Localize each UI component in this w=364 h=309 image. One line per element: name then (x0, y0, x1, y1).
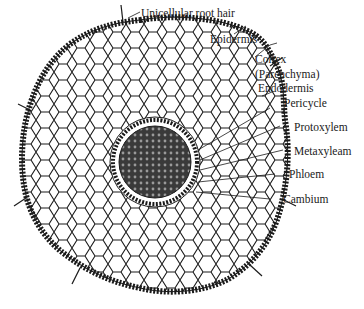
root-hair-top (121, 5, 123, 22)
label-root-hair: Unicellular root hair (141, 7, 235, 20)
label-phloem: Phloem (289, 168, 324, 181)
label-protoxylem: Protoxylem (294, 121, 348, 134)
label-epidermis: Epidermis (210, 33, 257, 46)
label-endodermis: Endodermis (258, 82, 314, 95)
label-cortex-sub: (Parenchyma) (255, 68, 320, 81)
vascular-bundle (119, 126, 191, 198)
label-metaxylem: Metaxyleam (294, 145, 351, 158)
label-pericycle: Pericycle (284, 97, 327, 110)
label-cortex: Cortex (255, 53, 286, 66)
label-cambium: Cambium (283, 193, 328, 206)
